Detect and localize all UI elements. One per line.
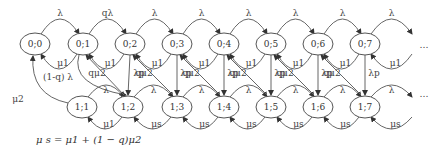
state-node-1-2: 1;2 [113, 96, 143, 118]
ellipsis: … [420, 40, 429, 50]
rate-label-backward: μ1 [293, 58, 305, 68]
rate-label-forward: λ [340, 8, 346, 18]
rate-label-1-q-lambda: (1-q) λ [43, 72, 73, 82]
rate-label-q-mu2: qμ2 [276, 68, 293, 78]
rate-label-lambda-p: λp [368, 68, 380, 78]
rate-label-forward: λ [293, 8, 299, 18]
rate-label-backward: μ1 [199, 58, 211, 68]
state-node-1-7: 1;7 [350, 96, 380, 118]
state-node-0-6: 0;6 [303, 33, 333, 55]
ellipsis: … [420, 89, 429, 99]
rate-label-forward: λ [246, 8, 252, 18]
state-node-1-1: 1;1 [67, 96, 97, 118]
svg-text:1;3: 1;3 [170, 102, 185, 112]
state-node-0-3: 0;3 [162, 33, 192, 55]
state-node-0-2: 0;2 [115, 33, 145, 55]
state-node-0-5: 0;5 [256, 33, 286, 55]
rate-label-forward: λ [151, 85, 157, 95]
svg-text:1;4: 1;4 [217, 102, 232, 112]
rate-label-q-mu2: qμ2 [229, 68, 246, 78]
rate-label-backward: μ1 [105, 58, 117, 68]
svg-text:0;7: 0;7 [358, 39, 373, 49]
rate-label-backward: μ1 [340, 58, 352, 68]
rate-label-forward: λ [389, 8, 395, 18]
svg-text:1;6: 1;6 [311, 102, 326, 112]
rate-label-backward: μs [340, 119, 351, 129]
rate-label-forward: λ [199, 8, 205, 18]
state-node-1-5: 1;5 [256, 96, 286, 118]
state-diagram: 0;00;10;20;30;40;50;60;71;11;21;31;41;51… [0, 0, 444, 152]
svg-text:1;7: 1;7 [358, 102, 373, 112]
svg-text:0;1: 0;1 [76, 39, 90, 49]
svg-text:0;6: 0;6 [311, 39, 326, 49]
state-node-0-4: 0;4 [209, 33, 239, 55]
rate-label-forward: λ [152, 8, 158, 18]
state-node-0-0: 0;0 [20, 33, 50, 55]
rate-label-forward: λ [57, 8, 63, 18]
state-node-1-6: 1;6 [303, 96, 333, 118]
rate-label-q-mu2: qμ2 [88, 68, 105, 78]
rate-label-forward: λ [199, 85, 205, 95]
svg-text:0;5: 0;5 [264, 39, 279, 49]
rate-label-backward: μ1 [57, 58, 69, 68]
svg-text:1;1: 1;1 [75, 102, 89, 112]
rate-label-forward: λ [340, 85, 346, 95]
rate-label-forward: λ [103, 85, 109, 95]
rate-label-backward: μ1 [152, 58, 164, 68]
state-node-1-3: 1;3 [162, 96, 192, 118]
svg-text:1;2: 1;2 [121, 102, 135, 112]
rate-label-forward: λ [246, 85, 252, 95]
state-node-0-1: 0;1 [68, 33, 98, 55]
rate-label-q-mu2: qμ2 [323, 68, 340, 78]
rate-label-forward: qλ [102, 8, 114, 18]
service-rate-formula: μ s = μ1 + (1 − q)μ2 [36, 134, 141, 145]
rate-label-mu2: μ2 [12, 94, 24, 104]
rate-label-q-mu2: qμ2 [182, 68, 199, 78]
rate-label-backward: μ1 [390, 58, 402, 68]
rate-label-backward: μs [390, 119, 401, 129]
rate-label-backward: μ1 [246, 58, 258, 68]
svg-text:0;0: 0;0 [28, 39, 43, 49]
rate-label-backward: μs [293, 119, 304, 129]
svg-text:0;2: 0;2 [123, 39, 137, 49]
state-node-1-4: 1;4 [209, 96, 239, 118]
rate-label-backward: μs [199, 119, 210, 129]
rate-label-forward: λ [389, 85, 395, 95]
svg-text:0;3: 0;3 [170, 39, 185, 49]
rate-label-backward: μ1 [103, 119, 115, 129]
svg-text:1;5: 1;5 [264, 102, 279, 112]
rate-label-backward: μs [151, 119, 162, 129]
svg-text:0;4: 0;4 [217, 39, 232, 49]
rate-label-forward: λ [293, 85, 299, 95]
rate-label-backward: μs [246, 119, 257, 129]
state-node-0-7: 0;7 [350, 33, 380, 55]
rate-label-q-mu2: qμ2 [135, 68, 152, 78]
